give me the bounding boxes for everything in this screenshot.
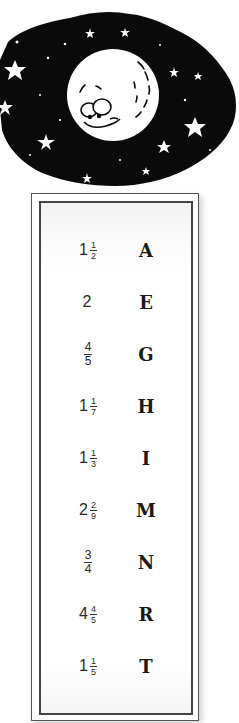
fraction: 4 5 xyxy=(90,604,97,625)
fraction: 1 7 xyxy=(90,396,97,417)
numerator: 4 xyxy=(90,604,97,615)
denominator: 4 xyxy=(85,563,92,576)
key-row-g: 4 5 G xyxy=(41,337,191,371)
moon-icon xyxy=(67,49,159,141)
key-row-e: 2 E xyxy=(41,285,191,319)
numerator: 1 xyxy=(90,448,97,459)
code-letter: N xyxy=(129,545,163,579)
denominator: 5 xyxy=(91,615,96,625)
mixed-number: 1 1 7 xyxy=(55,389,121,423)
proper-fraction: 3 4 xyxy=(55,545,121,579)
key-row-h: 1 1 7 H xyxy=(41,389,191,423)
fraction: 1 3 xyxy=(90,448,97,469)
fraction: 3 4 xyxy=(84,549,93,576)
mixed-number: 2 2 9 xyxy=(55,493,121,527)
whole-part: 1 xyxy=(79,397,88,415)
mixed-number: 1 1 3 xyxy=(55,441,121,475)
key-row-a: 1 1 2 A xyxy=(41,233,191,267)
numerator: 3 xyxy=(84,549,93,563)
decoder-key-panel: 1 1 2 A 2 E 4 5 G xyxy=(39,201,193,715)
numerator: 2 xyxy=(90,500,97,511)
whole-part: 1 xyxy=(79,449,88,467)
mixed-number: 4 4 5 xyxy=(55,597,121,631)
numerator: 1 xyxy=(90,396,97,407)
whole-part: 1 xyxy=(79,657,88,675)
fraction: 2 9 xyxy=(90,500,97,521)
denominator: 5 xyxy=(91,667,96,677)
whole-part: 4 xyxy=(79,605,88,623)
fraction: 1 2 xyxy=(90,240,97,261)
key-row-r: 4 4 5 R xyxy=(41,597,191,631)
key-row-n: 3 4 N xyxy=(41,545,191,579)
denominator: 9 xyxy=(91,511,96,521)
whole-number: 2 xyxy=(55,285,121,319)
code-letter: G xyxy=(129,337,163,371)
whole-part: 2 xyxy=(83,293,92,311)
moon-starry-sky-illustration xyxy=(0,0,239,190)
code-letter: R xyxy=(129,597,163,631)
code-letter: M xyxy=(129,493,163,527)
key-row-i: 1 1 3 I xyxy=(41,441,191,475)
code-letter: E xyxy=(129,285,163,319)
fraction: 1 5 xyxy=(90,656,97,677)
denominator: 3 xyxy=(91,459,96,469)
fraction: 4 5 xyxy=(84,341,93,368)
mixed-number: 1 1 5 xyxy=(55,649,121,683)
numerator: 1 xyxy=(90,656,97,667)
denominator: 5 xyxy=(85,355,92,368)
denominator: 2 xyxy=(91,251,96,261)
code-letter: H xyxy=(129,389,163,423)
proper-fraction: 4 5 xyxy=(55,337,121,371)
whole-part: 1 xyxy=(79,241,88,259)
mixed-number: 1 1 2 xyxy=(55,233,121,267)
whole-part: 2 xyxy=(79,501,88,519)
numerator: 1 xyxy=(90,240,97,251)
decoder-key-frame: 1 1 2 A 2 E 4 5 G xyxy=(31,193,199,721)
numerator: 4 xyxy=(84,341,93,355)
code-letter: A xyxy=(129,233,163,267)
denominator: 7 xyxy=(91,407,96,417)
key-row-m: 2 2 9 M xyxy=(41,493,191,527)
key-row-t: 1 1 5 T xyxy=(41,649,191,683)
code-letter: T xyxy=(129,649,163,683)
code-letter: I xyxy=(129,441,163,475)
